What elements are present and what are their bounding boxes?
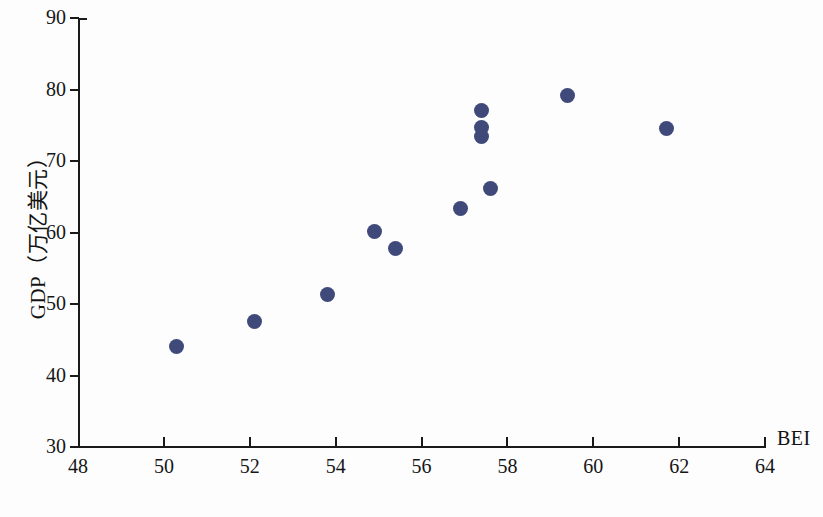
x-tick-label-54: 54: [306, 456, 366, 476]
x-tick-label-58: 58: [477, 456, 537, 476]
data-point: [474, 129, 489, 144]
x-tick-56: [421, 437, 423, 447]
y-tick-label-90: 90: [20, 7, 66, 27]
y-tick-90: [70, 17, 79, 19]
x-tick-60: [592, 437, 594, 447]
y-tick-50: [70, 303, 79, 305]
y-tick-label-30: 30: [20, 436, 66, 456]
y-tick-80: [70, 89, 79, 91]
y-tick-label-40: 40: [20, 365, 66, 385]
data-point: [474, 103, 489, 118]
x-axis-title: BEI: [777, 427, 811, 450]
x-tick-label-52: 52: [220, 456, 280, 476]
y-tick-30: [70, 446, 79, 448]
x-tick-64: [764, 437, 766, 447]
data-point: [453, 201, 468, 216]
x-tick-58: [506, 437, 508, 447]
scatter-plot: 30405060708090 485052545658606264 GDP（万亿…: [0, 0, 823, 517]
y-tick-label-80: 80: [20, 79, 66, 99]
x-tick-62: [678, 437, 680, 447]
y-axis-title: GDP（万亿美元）: [21, 103, 51, 363]
chart-page: 30405060708090 485052545658606264 GDP（万亿…: [0, 0, 823, 517]
data-point: [367, 224, 382, 239]
data-point: [560, 88, 575, 103]
x-tick-label-56: 56: [392, 456, 452, 476]
data-point: [247, 314, 262, 329]
data-point: [320, 287, 335, 302]
x-tick-50: [163, 437, 165, 447]
x-tick-label-60: 60: [563, 456, 623, 476]
x-tick-label-50: 50: [134, 456, 194, 476]
x-tick-label-64: 64: [735, 456, 795, 476]
x-tick-label-62: 62: [649, 456, 709, 476]
x-tick-label-48: 48: [48, 456, 108, 476]
x-tick-54: [335, 437, 337, 447]
y-tick-70: [70, 160, 79, 162]
data-point: [169, 339, 184, 354]
y-tick-60: [70, 232, 79, 234]
data-point: [659, 121, 674, 136]
y-axis-top-cap: [78, 18, 87, 20]
data-point: [483, 181, 498, 196]
y-tick-40: [70, 375, 79, 377]
data-point: [388, 241, 403, 256]
x-tick-52: [249, 437, 251, 447]
